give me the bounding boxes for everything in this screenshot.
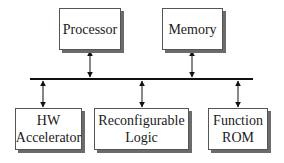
system-architecture-diagram: Processor Memory HW Accelerator Reconfig… <box>0 0 284 163</box>
reconfigurable-logic-label-line-1: Reconfigurable <box>98 112 184 129</box>
hw-accelerator-label-line-2: Accelerator <box>16 129 81 146</box>
function-rom-label-line-2: ROM <box>222 129 254 146</box>
hw-accelerator-block: HW Accelerator <box>15 108 82 150</box>
function-rom-label-line-1: Function <box>213 112 263 129</box>
memory-block: Memory <box>162 8 223 50</box>
processor-block: Processor <box>59 8 121 50</box>
memory-label: Memory <box>168 21 216 38</box>
hw-accelerator-label-line-1: HW <box>37 112 60 129</box>
reconfigurable-logic-block: Reconfigurable Logic <box>94 108 189 150</box>
function-rom-block: Function ROM <box>208 108 268 150</box>
reconfigurable-logic-label-line-2: Logic <box>125 129 158 146</box>
processor-label: Processor <box>63 21 117 38</box>
